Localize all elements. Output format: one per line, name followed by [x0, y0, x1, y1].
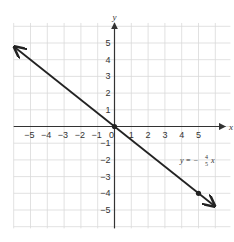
y-tick-label: 5	[105, 38, 110, 48]
x-tick-label: −4	[41, 130, 51, 140]
x-tick-label: 5	[196, 130, 201, 140]
x-tick-label: −5	[24, 130, 34, 140]
equation-prefix: y = −	[179, 156, 198, 165]
x-axis-label: x	[228, 122, 233, 132]
equation-variable: x	[210, 156, 215, 165]
y-tick-label: 3	[105, 71, 110, 81]
equation-numerator: 4	[205, 154, 208, 160]
x-tick-label: 3	[162, 130, 167, 140]
y-tick-label: −2	[100, 155, 110, 165]
data-point	[112, 124, 117, 129]
equation-label: y = − 4 5 x	[179, 154, 215, 167]
x-tick-label: −3	[58, 130, 68, 140]
grid-lines	[14, 23, 231, 228]
equation-denominator: 5	[205, 161, 208, 167]
y-tick-label: 2	[105, 88, 110, 98]
axes	[14, 23, 226, 228]
coordinate-plane: −5−4−3−2−1012345−5−4−3−2−112345 x y y = …	[0, 0, 234, 242]
y-tick-label: 1	[105, 105, 110, 115]
y-tick-label: −1	[100, 138, 110, 148]
data-point	[196, 191, 201, 196]
x-tick-label: 4	[179, 130, 184, 140]
y-axis-label: y	[112, 12, 117, 22]
x-tick-label: 2	[146, 130, 151, 140]
y-tick-label: −5	[100, 205, 110, 215]
y-tick-label: 4	[105, 55, 110, 65]
x-tick-label: −2	[75, 130, 85, 140]
y-tick-label: −3	[100, 172, 110, 182]
y-tick-label: −4	[100, 188, 110, 198]
